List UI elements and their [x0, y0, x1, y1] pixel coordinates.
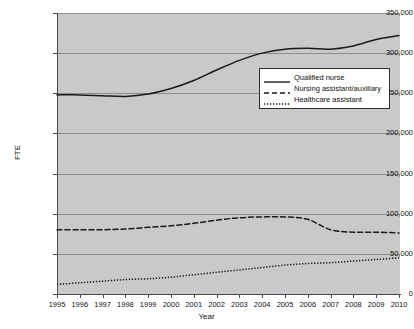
y-axis-title: FTE	[13, 123, 22, 183]
gridline	[57, 174, 400, 175]
chart-legend: Qualified nurseNursing assistant/auxilia…	[259, 68, 390, 109]
y-tick-mark	[53, 93, 57, 94]
x-tick-mark	[262, 294, 263, 298]
x-tick-mark	[103, 294, 104, 298]
y-tick-label: 350,000	[361, 9, 413, 17]
legend-item: Nursing assistant/auxiliary	[263, 83, 385, 94]
y-axis-line	[57, 13, 58, 295]
y-tick-label: 150,000	[361, 170, 413, 178]
y-tick-mark	[53, 13, 57, 14]
gridline	[57, 254, 400, 255]
legend-label: Qualified nurse	[294, 73, 344, 83]
plot-area	[57, 13, 400, 294]
y-tick-label: 300,000	[361, 49, 413, 57]
y-tick-mark	[53, 133, 57, 134]
y-tick-mark	[53, 254, 57, 255]
legend-line-sample-icon	[263, 73, 291, 83]
x-tick-mark	[331, 294, 332, 298]
gridline	[57, 214, 400, 215]
x-axis-title: Year	[0, 312, 413, 321]
x-tick-mark	[57, 294, 58, 298]
x-tick-mark	[239, 294, 240, 298]
gridline	[57, 53, 400, 54]
y-tick-mark	[53, 53, 57, 54]
x-tick-mark	[125, 294, 126, 298]
x-tick-label: 2010	[384, 300, 414, 309]
x-tick-mark	[194, 294, 195, 298]
x-tick-mark	[353, 294, 354, 298]
gridline	[57, 13, 400, 14]
y-tick-label: 50,000	[361, 250, 413, 258]
x-tick-mark	[80, 294, 81, 298]
legend-label: Nursing assistant/auxiliary	[294, 84, 381, 94]
x-tick-mark	[217, 294, 218, 298]
x-tick-mark	[148, 294, 149, 298]
y-tick-mark	[53, 174, 57, 175]
gridline	[57, 133, 400, 134]
x-axis-line	[57, 294, 401, 295]
y-tick-mark	[53, 214, 57, 215]
x-tick-mark	[285, 294, 286, 298]
x-tick-mark	[399, 294, 400, 298]
legend-line-sample-icon	[263, 95, 291, 105]
legend-item: Healthcare assistant	[263, 94, 385, 105]
legend-line-sample-icon	[263, 84, 291, 94]
x-tick-mark	[376, 294, 377, 298]
y-tick-label: 0	[361, 290, 413, 298]
y-tick-label: 100,000	[361, 210, 413, 218]
x-tick-mark	[308, 294, 309, 298]
legend-item: Qualified nurse	[263, 72, 385, 83]
y-tick-label: 200,000	[361, 129, 413, 137]
x-tick-mark	[171, 294, 172, 298]
legend-label: Healthcare assistant	[294, 95, 362, 105]
